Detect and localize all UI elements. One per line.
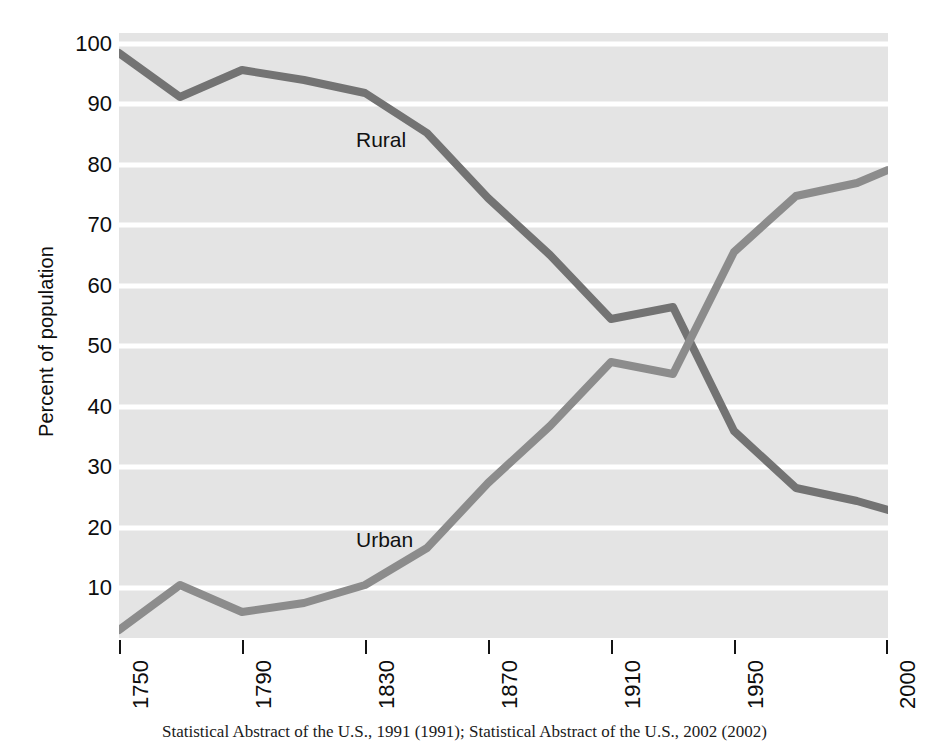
series-line-rural	[119, 53, 888, 510]
chart-svg	[119, 33, 888, 638]
y-tick-label-10: 10	[12, 577, 112, 599]
plot-area	[119, 33, 888, 638]
x-tick-mark-1870	[488, 640, 490, 654]
y-tick-label-50: 50	[12, 335, 112, 357]
figure-source-caption: Statistical Abstract of the U.S., 1991 (…	[0, 722, 929, 741]
y-tick-label-70: 70	[12, 214, 112, 236]
figure-container: Percent of population 100 90 80 70 60 50…	[0, 0, 929, 742]
series-label-rural: Rural	[356, 128, 406, 152]
y-tick-label-90: 90	[12, 93, 112, 115]
y-tick-label-20: 20	[12, 517, 112, 539]
x-tick-mark-2000	[886, 640, 888, 654]
series-label-urban: Urban	[356, 528, 413, 552]
x-tick-mark-1790	[242, 640, 244, 654]
y-tick-label-80: 80	[12, 154, 112, 176]
y-tick-label-100: 100	[12, 33, 112, 55]
gridlines	[119, 44, 888, 588]
x-tick-mark-1830	[365, 640, 367, 654]
x-tick-mark-1750	[119, 640, 121, 654]
y-tick-label-60: 60	[12, 275, 112, 297]
series-line-urban	[119, 170, 888, 630]
y-tick-label-40: 40	[12, 396, 112, 418]
y-axis-tick-labels: 100 90 80 70 60 50 40 30 20 10	[0, 0, 112, 742]
y-tick-label-30: 30	[12, 456, 112, 478]
x-tick-mark-1910	[611, 640, 613, 654]
x-tick-mark-1950	[734, 640, 736, 654]
